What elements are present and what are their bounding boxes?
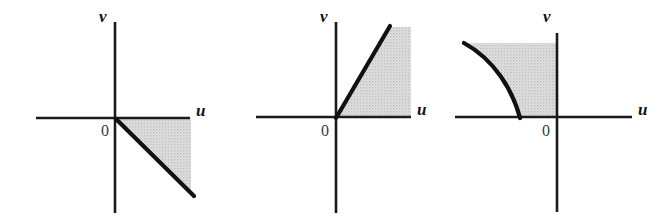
v-axis-label-3: v (543, 7, 551, 26)
origin-label-3: 0 (542, 122, 550, 139)
figure-2-canvas: v u 0 (230, 0, 450, 224)
u-axis-label-3: u (638, 100, 647, 119)
origin-label-1: 0 (101, 122, 109, 139)
v-axis-label-1: v (99, 7, 107, 26)
figure-3: v u 0 (450, 0, 669, 224)
v-axis-label-2: v (320, 7, 328, 26)
figure-strip: v u 0 v u 0 (0, 0, 669, 224)
u-axis-label-2: u (417, 100, 426, 119)
figure-2: v u 0 (230, 0, 450, 224)
origin-label-2: 0 (321, 122, 329, 139)
figure-1: v u 0 (0, 0, 230, 224)
figure-1-canvas: v u 0 (0, 0, 230, 224)
u-axis-label-1: u (196, 101, 205, 120)
figure-3-canvas: v u 0 (450, 0, 669, 224)
shaded-region-2 (337, 27, 411, 117)
